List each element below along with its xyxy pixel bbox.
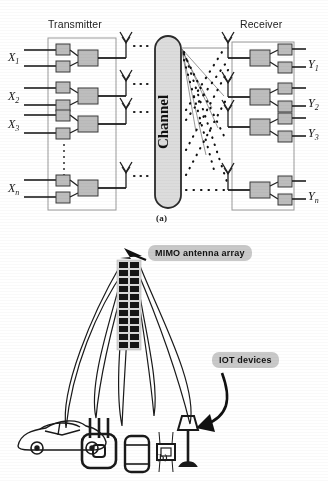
mimo-pointer-arrow: [120, 248, 146, 260]
input-label-x1: X1: [8, 50, 19, 66]
output-label-y1: Y1: [308, 57, 319, 73]
tx-to-channel-links: [134, 46, 152, 176]
figure-mimo-iot: Channel: [0, 0, 328, 481]
receiver-chains: [222, 32, 306, 205]
channel-label: Channel: [155, 95, 171, 149]
transmitter-title: Transmitter: [48, 18, 102, 30]
rx-chain-1: [222, 32, 306, 73]
output-label-y3: Y3: [308, 126, 319, 142]
rx-chain-n: [222, 163, 306, 205]
device-lamp: [178, 416, 198, 466]
output-label-y2: Y2: [308, 96, 319, 112]
mimo-antenna-array-label: MIMO antenna array: [148, 245, 252, 261]
beam-lobe-5: [136, 266, 191, 424]
caption-b: (b): [156, 452, 168, 462]
rx-chain-2: [222, 72, 306, 112]
caption-a: (a): [156, 213, 167, 223]
input-label-x3: X3: [8, 117, 19, 133]
mimo-antenna-array: [117, 260, 141, 350]
panel-a-mimo-block-diagram: Channel: [0, 0, 328, 235]
input-label-x2: X2: [8, 89, 19, 105]
iot-devices-label: IOT devices: [212, 352, 279, 368]
panel-b-massive-mimo-scene: [0, 240, 328, 476]
device-router: [82, 418, 116, 468]
receiver-title: Receiver: [240, 18, 282, 30]
device-smartphone: [125, 436, 149, 472]
iot-pointer-arrow: [196, 373, 227, 432]
channel-block: Channel: [155, 36, 181, 208]
output-label-yn: Yn: [308, 189, 319, 205]
input-label-xn: Xn: [8, 181, 19, 197]
